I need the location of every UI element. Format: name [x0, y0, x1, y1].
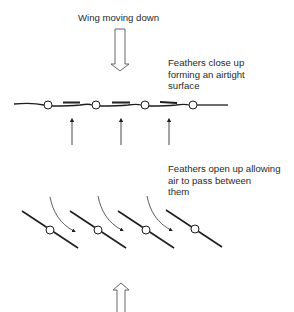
- down-arrow-icon: [111, 29, 129, 71]
- closed-feathers: [14, 101, 228, 109]
- airflow-up-arrows: [72, 120, 169, 145]
- up-arrow-icon: [113, 283, 129, 312]
- wing-feather-diagram: [0, 0, 294, 312]
- open-feathers: [22, 210, 222, 248]
- airflow-curved-arrows: [50, 196, 171, 231]
